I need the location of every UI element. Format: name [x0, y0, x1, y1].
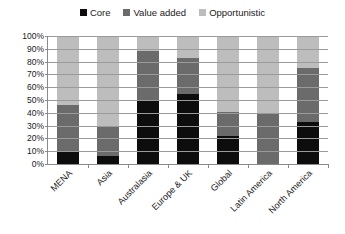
- x-axis: MENAAsiaAustralasiaEurope & UKGlobalLati…: [47, 164, 327, 234]
- y-tick-label: 0%: [32, 160, 44, 169]
- y-tick-label: 90%: [27, 45, 44, 54]
- bar-segment-opportunistic[interactable]: [57, 36, 79, 105]
- y-tick-label: 30%: [27, 121, 44, 130]
- bar-segment-core[interactable]: [297, 122, 319, 164]
- y-tick-label: 50%: [27, 96, 44, 105]
- bar-segment-core[interactable]: [137, 100, 159, 164]
- x-tickmark: [328, 164, 329, 168]
- bar-segment-value-added[interactable]: [177, 58, 199, 94]
- y-tick-label: 100%: [22, 32, 44, 41]
- y-tick-label: 40%: [27, 109, 44, 118]
- plot-area: [47, 36, 328, 165]
- y-tickmark: [45, 36, 48, 37]
- bar-segment-value-added[interactable]: [217, 112, 239, 136]
- gridline: [48, 126, 328, 127]
- y-tickmark: [45, 126, 48, 127]
- y-tick-label: 80%: [27, 57, 44, 66]
- y-tick-label: 70%: [27, 70, 44, 79]
- gridline: [48, 62, 328, 63]
- bar-segment-opportunistic[interactable]: [177, 36, 199, 58]
- bar-segment-core[interactable]: [97, 156, 119, 164]
- plot-wrapper: 100%90%80%70%60%50%40%30%20%10%0% MENAAs…: [0, 0, 345, 234]
- bar-segment-core[interactable]: [217, 136, 239, 164]
- y-tick-label: 10%: [27, 147, 44, 156]
- stacked-bar-chart: CoreValue addedOpportunistic 100%90%80%7…: [0, 0, 345, 234]
- y-tickmark: [45, 113, 48, 114]
- y-tickmark: [45, 138, 48, 139]
- y-tickmark: [45, 100, 48, 101]
- bar-segment-value-added[interactable]: [137, 51, 159, 100]
- y-tickmark: [45, 62, 48, 63]
- y-tickmark: [45, 151, 48, 152]
- gridline: [48, 151, 328, 152]
- y-tickmark: [45, 74, 48, 75]
- bar-segment-opportunistic[interactable]: [297, 36, 319, 68]
- gridline: [48, 36, 328, 37]
- y-tickmark: [45, 49, 48, 50]
- gridline: [48, 74, 328, 75]
- y-tickmark: [45, 87, 48, 88]
- gridline: [48, 87, 328, 88]
- bar-segment-core[interactable]: [57, 152, 79, 164]
- y-tick-label: 60%: [27, 83, 44, 92]
- y-tick-label: 20%: [27, 134, 44, 143]
- gridline: [48, 138, 328, 139]
- gridline: [48, 113, 328, 114]
- gridline: [48, 100, 328, 101]
- bar-segment-core[interactable]: [177, 94, 199, 164]
- gridline: [48, 49, 328, 50]
- y-axis: 100%90%80%70%60%50%40%30%20%10%0%: [12, 30, 44, 164]
